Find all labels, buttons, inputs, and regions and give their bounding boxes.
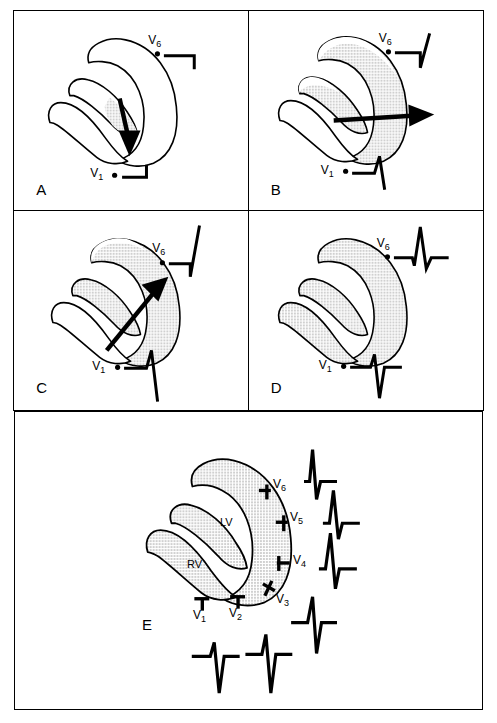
- lead-label-v6: V6: [377, 236, 390, 252]
- lead-label-v1: V1: [321, 163, 334, 179]
- lead-label-v4: V4: [293, 553, 306, 569]
- electrode-dot-v1: [341, 363, 346, 368]
- panel-c: V6 V1 C: [13, 210, 249, 411]
- waveform-v6: [166, 56, 195, 68]
- lead-label-v1: V1: [193, 608, 206, 624]
- electrode-dot-v6: [385, 254, 390, 259]
- panel-letter-e: E: [142, 616, 153, 633]
- lead-label-v6: V6: [273, 477, 286, 493]
- electrode-dot-v1: [343, 169, 348, 174]
- chamber-label-lv: LV: [220, 516, 233, 528]
- panel-letter-a: A: [36, 181, 47, 198]
- lead-label-v3: V3: [276, 592, 289, 608]
- electrode-dot-v1: [112, 173, 117, 178]
- waveform-v1: [193, 642, 238, 693]
- waveform-v4: [321, 533, 356, 589]
- panel-d: V6 V1 D: [248, 210, 484, 411]
- lead-label-v5: V5: [290, 510, 303, 526]
- lead-label-v1: V1: [319, 358, 332, 374]
- waveform-v6: [396, 35, 429, 68]
- lead-label-v6: V6: [152, 241, 165, 257]
- waveform-v6: [395, 227, 447, 269]
- lead-label-v2: V2: [229, 606, 242, 622]
- figure-container: V6 V1 A: [14, 11, 483, 711]
- panel-b-drawing: [249, 11, 483, 210]
- electrode-dot-v6: [160, 260, 165, 265]
- lead-label-v1: V1: [90, 166, 103, 182]
- panel-a-drawing: [14, 11, 248, 210]
- panel-e-drawing: [15, 412, 482, 709]
- panel-a: V6 V1 A: [13, 10, 249, 211]
- lead-label-v6: V6: [379, 31, 392, 47]
- lead-label-v1: V1: [92, 359, 105, 375]
- panel-b: V6 V1 B: [248, 10, 484, 211]
- lead-label-v6: V6: [148, 33, 161, 49]
- panel-letter-d: D: [271, 379, 282, 396]
- waveform-v1: [124, 166, 147, 177]
- panel-e: V6 V5 V4 V3 V1 V2 LV RV E: [14, 411, 483, 710]
- chamber-label-rv: RV: [187, 558, 202, 570]
- panel-letter-c: C: [36, 379, 47, 396]
- waveform-v2: [247, 635, 291, 694]
- electrode-dot-v6: [386, 49, 391, 54]
- panel-c-drawing: [14, 211, 248, 410]
- waveform-v5: [324, 490, 358, 539]
- electrode-dot-v1: [115, 364, 120, 369]
- waveform-v3: [293, 597, 336, 654]
- waveform-v6: [306, 450, 336, 500]
- electrode-dot-v6: [155, 51, 160, 56]
- panel-d-drawing: [249, 211, 483, 410]
- waveform-v6: [171, 227, 200, 277]
- panel-grid-top: V6 V1 A: [14, 11, 483, 410]
- panel-letter-b: B: [271, 181, 282, 198]
